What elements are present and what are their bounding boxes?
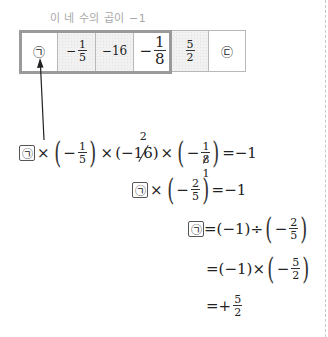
page-divider [325, 0, 326, 337]
fraction: 1 5 [78, 141, 87, 165]
unknown-box: ㉠ [132, 182, 148, 198]
fraction: 2 5 [191, 178, 200, 202]
equation-line-2: ㉠ × ( − 2 5 ) =−1 [132, 175, 246, 205]
equation-line-4: =(−1)× ( − 5 2 ) [206, 254, 312, 284]
cancelled-sixteen: 2 16 [134, 144, 153, 162]
fraction: 5 2 [233, 294, 242, 318]
unknown-box: ㉠ [188, 221, 204, 237]
arrow-icon [0, 0, 328, 337]
equation-line-5: =+ 5 2 [206, 294, 242, 318]
equation-line-3: ㉠ =(−1)÷ ( − 2 5 ) [188, 214, 310, 244]
fraction: 1 81 [201, 141, 210, 165]
equation-line-1: ㉠ × ( − 1 5 ) × (− 2 16 ) × ( − 1 81 ) =… [19, 138, 257, 168]
unknown-box: ㉠ [19, 145, 35, 161]
fraction: 5 2 [291, 257, 300, 281]
fraction: 2 5 [289, 217, 298, 241]
